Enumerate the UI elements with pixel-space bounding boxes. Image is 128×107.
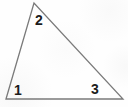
angle-label-1: 1 (14, 83, 22, 97)
triangle-outline (6, 3, 123, 99)
angle-label-3: 3 (91, 82, 99, 96)
angle-label-2: 2 (35, 13, 43, 27)
geometry-figure: 1 2 3 (0, 0, 128, 107)
